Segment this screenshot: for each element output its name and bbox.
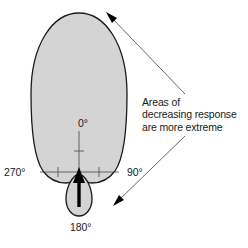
angle-label-270: 270° bbox=[4, 167, 25, 178]
annotation-line-1: Areas of bbox=[142, 96, 237, 108]
annotation-line-3: are more extreme bbox=[142, 121, 237, 133]
annotation-caption: Areas of decreasing response are more ex… bbox=[142, 96, 237, 133]
polar-response-diagram: 0° 90° 180° 270° Areas of decreasing res… bbox=[0, 0, 248, 248]
annotation-line-2: decreasing response bbox=[142, 108, 237, 120]
angle-label-0: 0° bbox=[78, 118, 88, 129]
angle-label-90: 90° bbox=[127, 167, 143, 178]
angle-label-180: 180° bbox=[70, 222, 91, 233]
